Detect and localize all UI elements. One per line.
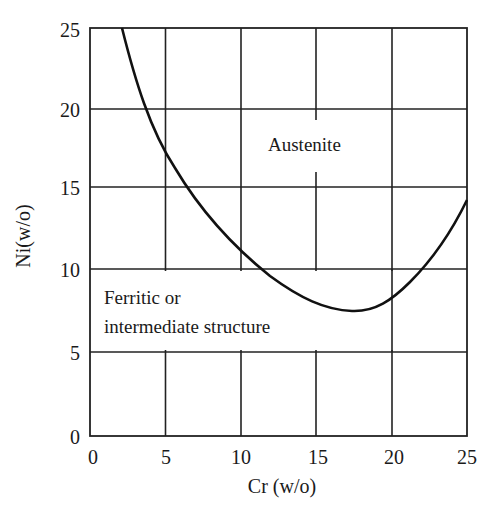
y-tick-labels: 25 20 15 10 5 0 bbox=[60, 19, 80, 448]
y-tick-25: 25 bbox=[60, 19, 80, 41]
y-tick-10: 10 bbox=[60, 259, 80, 281]
region-label-ferritic-1: Ferritic or bbox=[104, 287, 181, 308]
y-axis-label: Ni(w/o) bbox=[12, 204, 35, 267]
x-axis-label: Cr (w/o) bbox=[248, 475, 316, 498]
ferritic-label-bg-2 bbox=[247, 271, 407, 350]
x-tick-labels: 0 5 10 15 20 25 bbox=[88, 446, 477, 468]
region-label-austenite: Austenite bbox=[268, 134, 341, 155]
x-tick-0: 0 bbox=[88, 446, 98, 468]
region-label-ferritic-2: intermediate structure bbox=[104, 316, 270, 337]
grid bbox=[90, 28, 467, 436]
x-tick-15: 15 bbox=[308, 446, 328, 468]
chart-canvas: 25 20 15 10 5 0 0 5 10 15 20 25 Cr (w/o)… bbox=[0, 0, 496, 511]
y-tick-5: 5 bbox=[70, 342, 80, 364]
y-tick-0: 0 bbox=[70, 426, 80, 448]
y-tick-20: 20 bbox=[60, 99, 80, 121]
x-tick-5: 5 bbox=[161, 446, 171, 468]
x-tick-25: 25 bbox=[457, 446, 477, 468]
plot-frame bbox=[90, 28, 467, 436]
x-tick-10: 10 bbox=[231, 446, 251, 468]
ferritic-label-bg bbox=[92, 271, 247, 350]
y-tick-15: 15 bbox=[60, 177, 80, 199]
x-tick-20: 20 bbox=[384, 446, 404, 468]
